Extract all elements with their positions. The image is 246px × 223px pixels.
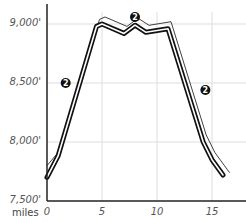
annotation-marker: 2 <box>130 12 140 22</box>
y-tick-label: 7,500' <box>10 194 41 205</box>
y-tick-label: 9,000' <box>10 17 41 28</box>
annotation-marker: 2 <box>200 85 210 95</box>
trail-line-outer-stroke <box>47 24 223 177</box>
annotation-marker: 2 <box>61 78 71 88</box>
elevation-chart: 222 <box>0 0 246 223</box>
y-tick-label: 8,500' <box>10 76 41 87</box>
x-tick-label: 15 <box>206 206 219 217</box>
x-tick-label: 0 <box>44 206 50 217</box>
grid-lines <box>47 12 246 201</box>
x-tick-label: 10 <box>151 206 164 217</box>
marker-label: 2 <box>63 79 69 88</box>
x-tick-label: 5 <box>99 206 105 217</box>
marker-label: 2 <box>203 86 209 95</box>
elevation-profile-line <box>47 17 230 177</box>
x-axis-unit-label: miles <box>12 207 39 218</box>
y-tick-label: 8,000' <box>10 135 41 146</box>
marker-label: 2 <box>132 13 138 22</box>
